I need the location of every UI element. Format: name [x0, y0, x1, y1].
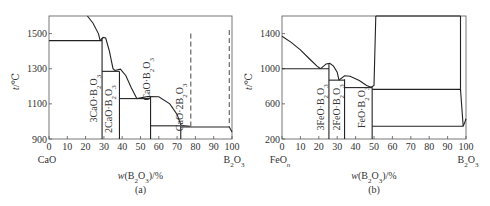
x-axis-title: w(B2O3)/% — [351, 170, 396, 185]
y-tick-label: 1100 — [27, 98, 47, 109]
figure-caption: (b) — [368, 184, 380, 196]
x-axis-title: w(B2O3)/% — [118, 170, 163, 185]
x-tick-label: 40 — [351, 141, 361, 152]
liquidus-curve — [87, 16, 100, 41]
x-tick-label: 100 — [459, 141, 474, 152]
x-tick-label: 90 — [443, 141, 453, 152]
y-tick-label: 200 — [265, 134, 280, 145]
y-tick-label: 1000 — [260, 63, 280, 74]
feon-b2o3-phase-diagram: 010203040506070809010020060010001400t/℃F… — [243, 16, 479, 196]
compound-label: 2CaO·B2O3 — [103, 85, 118, 133]
compound-label: 2FeO·B2O3 — [331, 84, 346, 131]
x-tick-label: 40 — [117, 141, 127, 152]
x-right-component-label: B2O3 — [224, 154, 245, 169]
liquidus-curve — [371, 16, 376, 87]
cao-b2o3-phase-diagram: 0102030405060708090100900110013001500t/℃… — [10, 16, 245, 196]
x-tick-label: 10 — [295, 141, 305, 152]
x-tick-label: 100 — [225, 141, 240, 152]
y-tick-label: 1400 — [260, 28, 280, 39]
x-tick-label: 70 — [406, 141, 416, 152]
x-tick-label: 20 — [81, 141, 91, 152]
compound-label: 3FeO·B2O3 — [315, 84, 330, 131]
x-tick-label: 80 — [190, 141, 200, 152]
x-tick-label: 30 — [99, 141, 109, 152]
x-right-component-label: B2O3 — [458, 154, 479, 169]
liquidus-curve — [115, 69, 137, 99]
y-tick-label: 1500 — [27, 28, 47, 39]
boundary-line — [463, 119, 466, 127]
compound-label: 3CaO·B2O3 — [88, 74, 103, 122]
x-tick-label: 70 — [172, 141, 182, 152]
x-tick-label: 10 — [62, 141, 72, 152]
x-tick-label: 80 — [424, 141, 434, 152]
x-tick-label: 60 — [387, 141, 397, 152]
compound-label: CaO·B2O3 — [141, 57, 156, 100]
liquidus-curve — [282, 36, 321, 68]
x-tick-label: 0 — [47, 141, 52, 152]
boundary-line — [461, 16, 464, 126]
phase-diagrams: 0102030405060708090100900110013001500t/℃… — [0, 0, 490, 206]
y-tick-label: 900 — [32, 134, 47, 145]
compound-label: FeO·B2O3 — [356, 86, 371, 128]
y-tick-label: 1300 — [27, 63, 47, 74]
y-tick-label: 600 — [265, 98, 280, 109]
y-axis-title: t/℃ — [243, 73, 254, 90]
x-tick-label: 0 — [280, 141, 285, 152]
x-tick-label: 20 — [314, 141, 324, 152]
compound-label: CaO·2B2O3 — [175, 83, 190, 131]
liquidus-curve — [321, 63, 339, 80]
boundary-line — [229, 127, 232, 132]
x-tick-label: 90 — [209, 141, 219, 152]
x-tick-label: 60 — [154, 141, 164, 152]
x-left-component-label: FeOn — [270, 154, 291, 169]
x-tick-label: 30 — [332, 141, 342, 152]
y-axis-title: t/℃ — [10, 73, 21, 90]
x-tick-label: 50 — [369, 141, 379, 152]
x-tick-label: 50 — [136, 141, 146, 152]
figure-caption: (a) — [135, 184, 146, 196]
x-left-component-label: CaO — [38, 154, 56, 165]
